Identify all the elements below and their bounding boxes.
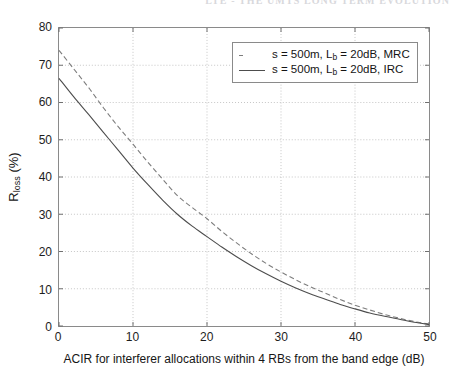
y-axis-label-main: R bbox=[6, 192, 21, 201]
x-tick-label: 30 bbox=[275, 330, 288, 344]
y-axis-label: Rloss (%) bbox=[6, 152, 22, 201]
y-tick-label: 20 bbox=[39, 245, 52, 259]
y-tick-label: 70 bbox=[39, 58, 52, 72]
y-tick-label: 30 bbox=[39, 208, 52, 222]
x-tick-label: 20 bbox=[200, 330, 213, 344]
figure-container: 01020304050 01020304050607080 ACIR for i… bbox=[0, 0, 456, 377]
x-axis-label: ACIR for interferer allocations within 4… bbox=[58, 352, 430, 366]
y-tick-label: 0 bbox=[45, 320, 52, 334]
series-group bbox=[59, 50, 429, 324]
legend-box: s = 500m, Lb = 20dB, MRCs = 500m, Lb = 2… bbox=[232, 42, 418, 83]
y-tick-label: 40 bbox=[39, 170, 52, 184]
legend-item-label: s = 500m, Lb = 20dB, IRC bbox=[272, 63, 403, 77]
y-tick-label: 50 bbox=[39, 133, 52, 147]
legend-line-sample-solid bbox=[239, 65, 265, 75]
x-tick-label: 50 bbox=[423, 330, 436, 344]
x-tick-label: 40 bbox=[349, 330, 362, 344]
legend-item-2: s = 500m, Lb = 20dB, IRC bbox=[239, 62, 410, 77]
legend-item-label: s = 500m, Lb = 20dB, MRC bbox=[272, 48, 410, 62]
series-line-1 bbox=[59, 50, 429, 324]
y-tick-label: 80 bbox=[39, 20, 52, 34]
legend-line-sample-dashed bbox=[239, 50, 265, 60]
y-tick-label: 10 bbox=[39, 283, 52, 297]
y-axis-label-unit: (%) bbox=[6, 152, 21, 176]
y-tick-label: 60 bbox=[39, 95, 52, 109]
x-tick-label: 10 bbox=[126, 330, 139, 344]
legend-item-1: s = 500m, Lb = 20dB, MRC bbox=[239, 47, 410, 62]
y-axis-label-subscript: loss bbox=[12, 176, 22, 192]
x-tick-label: 0 bbox=[55, 330, 62, 344]
series-line-2 bbox=[59, 78, 429, 324]
